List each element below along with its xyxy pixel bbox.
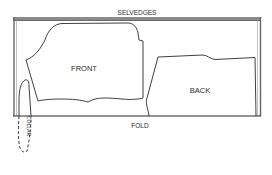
front-side-contour [146,57,158,116]
collar-label: COLLAR [26,116,32,136]
front-label: FRONT [71,64,97,73]
pattern-layout-diagram: SELVEDGES FOLD FRONT BACK COLLAR [0,0,272,175]
front-piece [26,23,143,102]
fabric-outline [13,17,261,116]
selvedges-label: SELVEDGES [118,9,158,16]
back-label: BACK [190,86,210,95]
fold-label: FOLD [131,122,149,129]
